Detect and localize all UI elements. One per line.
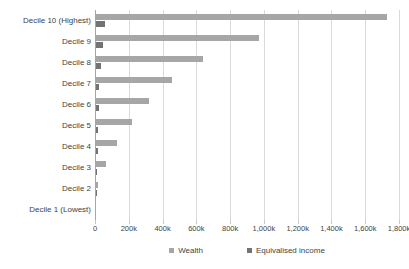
x-axis-tick-label: 1,800k (388, 224, 409, 233)
x-axis-tick-label: 1,600k (354, 224, 377, 233)
y-axis-category-label: Decile 2 (0, 184, 91, 194)
legend-swatch-icon (247, 248, 252, 253)
y-axis-category-label: Decile 4 (0, 142, 91, 152)
bar-wealth (95, 98, 149, 104)
bar-group (95, 10, 399, 31)
bar-wealth (95, 14, 387, 20)
bar-group (95, 116, 399, 137)
x-axis-tick-label: 600k (188, 224, 204, 233)
wealth-income-decile-bar-chart: Decile 10 (Highest)Decile 9Decile 8Decil… (0, 0, 409, 269)
legend-label: Wealth (178, 246, 203, 255)
bar-wealth (95, 56, 203, 62)
x-axis-tick-label: 800k (222, 224, 238, 233)
y-axis-category-label: Decile 3 (0, 163, 91, 173)
y-axis-category-label: Decile 6 (0, 100, 91, 110)
x-axis-tick-label: 0 (93, 224, 97, 233)
bar-wealth (95, 77, 172, 83)
gridline-1,800k (399, 10, 400, 221)
y-axis-category-label: Decile 10 (Highest) (0, 16, 91, 26)
y-axis-labels: Decile 10 (Highest)Decile 9Decile 8Decil… (0, 10, 91, 221)
legend-label: Equivalised income (256, 246, 325, 255)
bar-rows (95, 10, 399, 221)
y-axis-line (95, 10, 96, 221)
legend-item-wealth[interactable]: Wealth (169, 246, 203, 255)
bar-group (95, 179, 399, 200)
legend-item-equivalised-income[interactable]: Equivalised income (247, 246, 325, 255)
x-axis-labels: 0200k400k600k800k1,000k1,200k1,400k1,600… (95, 224, 399, 236)
x-axis-tick-label: 1,000k (253, 224, 276, 233)
y-axis-category-label: Decile 5 (0, 121, 91, 131)
legend-swatch-icon (169, 248, 174, 253)
y-axis-category-label: Decile 8 (0, 58, 91, 68)
bar-wealth (95, 161, 106, 167)
bar-group (95, 200, 399, 221)
bar-wealth (95, 140, 117, 146)
bar-group (95, 73, 399, 94)
bar-group (95, 31, 399, 52)
x-axis-tick-label: 400k (154, 224, 170, 233)
y-axis-category-label: Decile 1 (Lowest) (0, 205, 91, 215)
x-axis-tick-label: 1,200k (286, 224, 309, 233)
chart-legend: WealthEquivalised income (95, 243, 399, 257)
bar-group (95, 158, 399, 179)
y-axis-category-label: Decile 9 (0, 37, 91, 47)
bar-wealth (95, 119, 132, 125)
y-axis-category-label: Decile 7 (0, 79, 91, 89)
bar-equivalised-income (95, 42, 103, 48)
bar-group (95, 52, 399, 73)
bar-group (95, 94, 399, 115)
x-axis-tick-label: 200k (121, 224, 137, 233)
bar-group (95, 137, 399, 158)
bar-equivalised-income (95, 21, 105, 27)
x-axis-tick-label: 1,400k (320, 224, 343, 233)
plot-area (95, 10, 399, 221)
bar-wealth (95, 35, 259, 41)
